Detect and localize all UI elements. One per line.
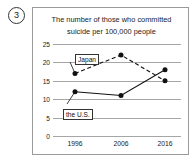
y-axis-tick-10: 10 [43,96,50,103]
data-point-us-2006 [119,93,124,98]
data-point-japan-2006 [119,53,124,58]
x-axis-tick-1996: 1996 [67,140,82,147]
question-number: 3 [8,7,25,24]
plot-area: 25 20 15 10 5 0 1996 2006 2016 [53,44,181,136]
series-line-us [75,70,165,96]
chart-container: The number of those who committed suicid… [32,7,189,155]
series-plot [53,44,181,136]
y-axis-tick-25: 25 [43,41,50,48]
series-label-us: the U.S. [63,109,93,120]
data-point-japan-1996 [73,71,78,76]
series-label-japan: Japan [75,54,99,65]
chart-title-line-2: suicide per 100,000 people [39,26,184,38]
chart-title-line-1: The number of those who committed [39,14,184,26]
y-axis-tick-20: 20 [43,59,50,66]
data-point-us-2016 [163,67,168,72]
x-axis-tick-2006: 2006 [113,140,128,147]
chart-title: The number of those who committed suicid… [39,14,184,37]
leader-line-us [67,92,75,104]
gridline-0: 0 [53,136,181,137]
x-axis-tick-2016: 2016 [157,140,172,147]
y-axis-tick-5: 5 [46,114,50,121]
y-axis-tick-0: 0 [46,133,50,140]
y-axis-tick-15: 15 [43,77,50,84]
data-point-japan-2016 [163,78,168,83]
